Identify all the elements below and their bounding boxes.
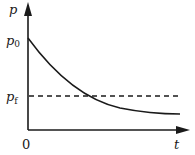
x-axis-arrow-icon — [176, 126, 190, 134]
origin-label: 0 — [22, 137, 30, 152]
x-axis-label: t — [174, 137, 180, 152]
decay-curve — [28, 38, 180, 114]
decay-diagram: p p0 pf 0 t — [0, 0, 195, 155]
p0-label: p0 — [6, 33, 20, 49]
y-axis-arrow-icon — [24, 2, 32, 16]
pf-label: pf — [6, 89, 18, 106]
y-axis-label: p — [9, 2, 18, 17]
